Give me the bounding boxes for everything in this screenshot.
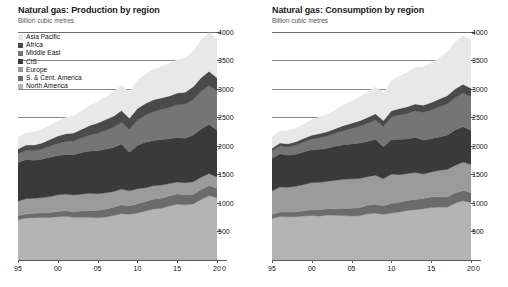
y-axis-production: 5001000150020002500300035004000 [217, 32, 254, 261]
y-tick-label-3500: 3500 [471, 57, 508, 65]
y-tick-label-3000: 3000 [471, 86, 508, 94]
x-tick-mark-00 [58, 260, 59, 263]
page-title: Natural gas: Production by region [18, 5, 160, 15]
plot-area-consumption [272, 32, 471, 260]
legend-swatch-icon [18, 35, 23, 40]
x-tick-mark-15 [431, 260, 432, 263]
legend-swatch-icon [18, 59, 23, 64]
legend-item-label: Middle East [26, 49, 60, 57]
legend-item-label: S. & Cent. America [26, 74, 82, 82]
x-tick-mark-05 [352, 260, 353, 263]
x-tick-mark-10 [137, 260, 138, 263]
x-tick-label-00: 00 [302, 265, 322, 273]
x-tick-mark-20 [217, 260, 218, 263]
legend-item-asia-pacific[interactable]: Asia Pacific [18, 33, 118, 41]
legend-item-africa[interactable]: Africa [18, 41, 118, 49]
x-axis-line [18, 260, 217, 261]
x-tick-mark-10 [391, 260, 392, 263]
x-tick-label-10: 10 [381, 265, 401, 273]
legend-item-north-america[interactable]: North America [18, 82, 118, 90]
stacked-area-consumption [272, 32, 471, 260]
chart-subtitle: Billion cubic metres [18, 17, 74, 24]
y-tick-label-2000: 2000 [471, 143, 508, 151]
y-tick-label-2000: 2000 [217, 143, 254, 151]
legend-item-middle-east[interactable]: Middle East [18, 49, 118, 57]
x-axis-line [272, 260, 471, 261]
x-tick-label-95: 95 [8, 265, 28, 273]
x-tick-mark-95 [18, 260, 19, 263]
legend-item-label: North America [26, 82, 68, 90]
legend-swatch-icon [18, 43, 23, 48]
x-tick-label-15: 15 [167, 265, 187, 273]
x-tick-label-00: 00 [48, 265, 68, 273]
legend-item-label: Europe [26, 66, 47, 74]
y-tick-label-2500: 2500 [471, 114, 508, 122]
y-tick-label-1000: 1000 [471, 200, 508, 208]
x-tick-mark-95 [272, 260, 273, 263]
x-tick-mark-00 [312, 260, 313, 263]
chart-panel-production: Natural gas: Production by region Billio… [0, 0, 254, 287]
x-tick-label-95: 95 [262, 265, 282, 273]
axis-zero-label: 0 [476, 265, 480, 273]
figure-root: Natural gas: Production by region Billio… [0, 0, 508, 287]
legend-item-label: Asia Pacific [26, 33, 60, 41]
legend-item-s-cent-america[interactable]: S. & Cent. America [18, 74, 118, 82]
legend-item-label: Africa [26, 41, 43, 49]
y-tick-label-500: 500 [217, 228, 254, 236]
legend-swatch-icon [18, 67, 23, 72]
x-tick-mark-20 [471, 260, 472, 263]
legend-swatch-icon [18, 51, 23, 56]
y-tick-label-3500: 3500 [217, 57, 254, 65]
legend-item-cis[interactable]: CIS [18, 58, 118, 66]
y-tick-label-1500: 1500 [471, 171, 508, 179]
y-tick-label-2500: 2500 [217, 114, 254, 122]
x-tick-mark-15 [177, 260, 178, 263]
legend-swatch-icon [18, 84, 23, 89]
x-tick-label-10: 10 [127, 265, 147, 273]
y-tick-label-4000: 4000 [471, 29, 508, 37]
y-tick-label-4000: 4000 [217, 29, 254, 37]
x-axis-extension [471, 260, 481, 261]
y-tick-label-1000: 1000 [217, 200, 254, 208]
chart-legend: Asia PacificAfricaMiddle EastCISEuropeS.… [18, 33, 118, 90]
chart-subtitle-consumption: Billion cubic metres [272, 17, 328, 24]
x-tick-label-05: 05 [88, 265, 108, 273]
x-axis-extension [217, 260, 227, 261]
y-tick-label-1500: 1500 [217, 171, 254, 179]
y-tick-label-500: 500 [471, 228, 508, 236]
x-tick-label-05: 05 [342, 265, 362, 273]
legend-swatch-icon [18, 76, 23, 81]
legend-item-label: CIS [26, 58, 37, 66]
x-tick-label-15: 15 [421, 265, 441, 273]
axis-zero-label: 0 [222, 265, 226, 273]
x-tick-mark-05 [98, 260, 99, 263]
legend-item-europe[interactable]: Europe [18, 66, 118, 74]
chart-panel-consumption: Natural gas: Consumption by region Billi… [254, 0, 508, 287]
y-axis-consumption: 5001000150020002500300035004000 [471, 32, 508, 261]
y-tick-label-3000: 3000 [217, 86, 254, 94]
page-title-consumption: Natural gas: Consumption by region [272, 5, 424, 15]
